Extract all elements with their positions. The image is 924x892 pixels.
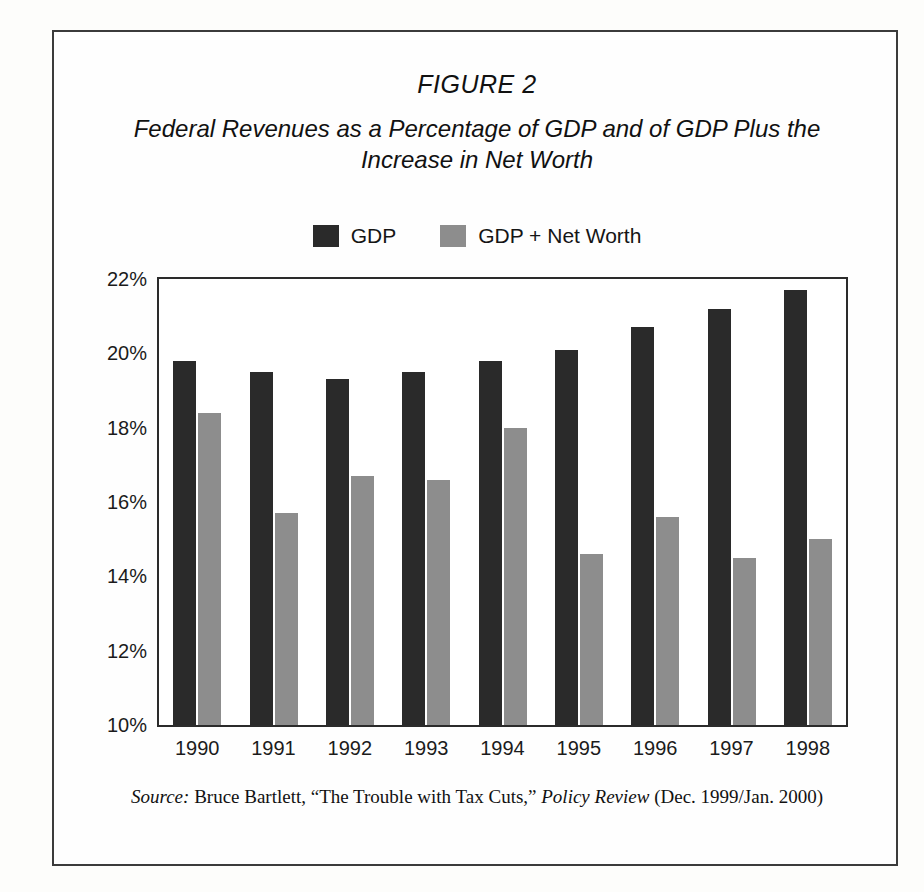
bar-group: 1990: [173, 279, 221, 725]
bar-group: 1993: [402, 279, 450, 725]
y-axis-tick-label: 16%: [107, 491, 147, 514]
bar-group: 1997: [708, 279, 756, 725]
bar-group: 1992: [326, 279, 374, 725]
bar-group: 1994: [479, 279, 527, 725]
plot-frame: 22%20%18%16%14%12%10%1990199119921993199…: [157, 277, 848, 727]
x-axis-tick-label: 1991: [250, 737, 298, 760]
x-axis-tick-label: 1997: [708, 737, 756, 760]
plot-area: 22%20%18%16%14%12%10%1990199119921993199…: [159, 279, 846, 725]
bar-gdp-plus-net-worth: [733, 558, 756, 725]
y-axis-tick-label: 20%: [107, 342, 147, 365]
bar-gdp-plus-net-worth: [275, 513, 298, 725]
bar-group: 1995: [555, 279, 603, 725]
bar-gdp: [173, 361, 196, 725]
bar-gdp: [555, 350, 578, 725]
source-prefix: Source:: [131, 786, 189, 807]
bar-gdp-plus-net-worth: [351, 476, 374, 725]
bar-gdp: [402, 372, 425, 725]
source-date: (Dec. 1999/Jan. 2000): [649, 786, 823, 807]
y-axis-tick-label: 14%: [107, 565, 147, 588]
source-note: Source: Bruce Bartlett, “The Trouble wit…: [54, 786, 900, 808]
plot-wrapper: 22%20%18%16%14%12%10%1990199119921993199…: [54, 32, 900, 868]
bar-gdp-plus-net-worth: [198, 413, 221, 725]
bar-group: 1996: [631, 279, 679, 725]
x-axis-tick-label: 1993: [402, 737, 450, 760]
bar-gdp: [479, 361, 502, 725]
scanned-page: FIGURE 2 Federal Revenues as a Percentag…: [0, 0, 924, 892]
source-author: Bruce Bartlett, “The Trouble with Tax Cu…: [189, 786, 541, 807]
y-axis-tick-label: 22%: [107, 268, 147, 291]
figure-border: FIGURE 2 Federal Revenues as a Percentag…: [52, 30, 898, 866]
source-publication: Policy Review: [541, 786, 649, 807]
bar-gdp-plus-net-worth: [504, 428, 527, 725]
y-axis-tick-label: 10%: [107, 714, 147, 737]
bar-gdp: [784, 290, 807, 725]
y-axis-tick-label: 12%: [107, 639, 147, 662]
x-axis-tick-label: 1994: [479, 737, 527, 760]
x-axis-tick-label: 1998: [784, 737, 832, 760]
bar-gdp-plus-net-worth: [656, 517, 679, 725]
bar-group: 1998: [784, 279, 832, 725]
x-axis-tick-label: 1992: [326, 737, 374, 760]
bar-gdp: [631, 327, 654, 725]
x-axis-tick-label: 1995: [555, 737, 603, 760]
bar-gdp-plus-net-worth: [427, 480, 450, 725]
x-axis-tick-label: 1990: [173, 737, 221, 760]
x-axis-tick-label: 1996: [631, 737, 679, 760]
bar-gdp: [250, 372, 273, 725]
bar-gdp: [326, 379, 349, 725]
bar-group: 1991: [250, 279, 298, 725]
bar-gdp-plus-net-worth: [809, 539, 832, 725]
bar-gdp: [708, 309, 731, 725]
y-axis-tick-label: 18%: [107, 416, 147, 439]
bar-gdp-plus-net-worth: [580, 554, 603, 725]
